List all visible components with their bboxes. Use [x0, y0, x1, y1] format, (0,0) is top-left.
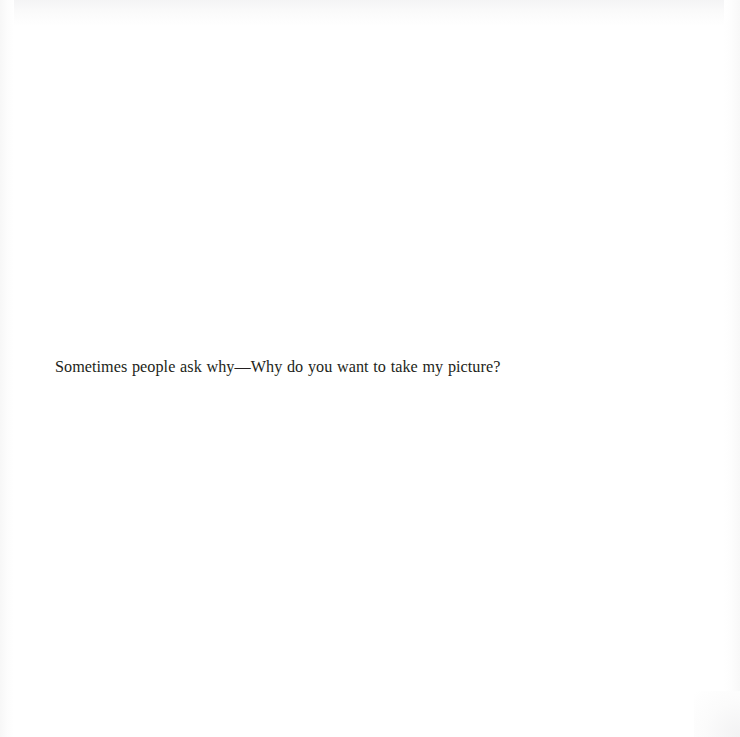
scan-edge-shading-top	[0, 0, 740, 26]
scanned-page: Sometimes people ask why—Why do you want…	[0, 0, 740, 737]
body-text-line: Sometimes people ask why—Why do you want…	[55, 357, 695, 377]
scan-edge-shading-right	[724, 0, 740, 737]
page-text-block: Sometimes people ask why—Why do you want…	[55, 357, 695, 377]
scan-edge-shading-bottom-right	[694, 691, 740, 737]
scan-edge-shading-left	[0, 0, 14, 737]
